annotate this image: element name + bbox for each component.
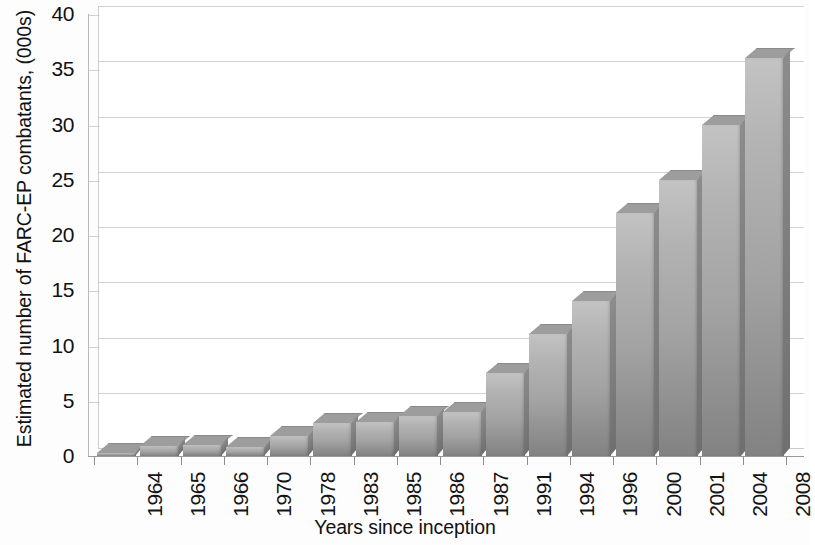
x-axis-tick — [224, 456, 225, 465]
x-axis-title: Years since inception — [0, 516, 810, 539]
x-axis-line — [88, 456, 804, 457]
x-axis-tick — [483, 456, 484, 465]
bar[interactable] — [529, 324, 573, 456]
x-axis-tick — [613, 456, 614, 465]
bar-front-face — [529, 334, 568, 456]
bar[interactable] — [659, 170, 703, 456]
bar[interactable] — [140, 436, 184, 456]
y-axis-tick-label: 15 — [32, 278, 74, 302]
x-axis-tick — [354, 456, 355, 465]
y-axis-tick-label: 20 — [32, 223, 74, 247]
bar[interactable] — [572, 291, 616, 456]
bar-front-face — [486, 373, 525, 456]
bar-front-face — [183, 445, 222, 456]
y-axis-tick-label: 35 — [32, 57, 74, 81]
bar-front-face — [443, 412, 482, 456]
bar-front-face — [270, 436, 309, 456]
x-axis-tick — [700, 456, 701, 465]
bar[interactable] — [443, 402, 487, 456]
y-axis-tick-label: 40 — [32, 2, 74, 26]
bar[interactable] — [226, 437, 270, 456]
bar-side-face — [783, 50, 790, 456]
x-axis-tick — [94, 456, 95, 465]
y-axis-tick-label: 30 — [32, 112, 74, 136]
bar-front-face — [745, 58, 784, 456]
x-axis-tick — [397, 456, 398, 465]
x-axis-tick — [786, 456, 787, 465]
x-axis-tick — [527, 456, 528, 465]
bar-front-face — [356, 422, 395, 456]
bar[interactable] — [702, 115, 746, 457]
y-axis-tick-labels: 0510152025303540 — [14, 0, 74, 545]
bar[interactable] — [745, 48, 789, 456]
plot-area: 1964196519661970197819831985198619871991… — [88, 6, 804, 454]
bar[interactable] — [97, 443, 141, 456]
bar[interactable] — [356, 412, 400, 456]
bar-front-face — [659, 180, 698, 456]
bar-front-face — [226, 447, 265, 456]
x-axis-tick — [656, 456, 657, 465]
x-axis-tick — [181, 456, 182, 465]
bar[interactable] — [486, 363, 530, 456]
bar[interactable] — [270, 426, 314, 456]
y-axis-tick-label: 25 — [32, 167, 74, 191]
x-axis-tick — [743, 456, 744, 465]
x-axis-tick — [267, 456, 268, 465]
bar-front-face — [399, 416, 438, 456]
bar[interactable] — [616, 203, 660, 456]
bar-front-face — [702, 125, 741, 457]
bar-front-face — [616, 213, 655, 456]
y-axis-tick-label: 0 — [32, 444, 74, 468]
bar[interactable] — [313, 413, 357, 456]
x-axis-tick — [440, 456, 441, 465]
x-axis-tick — [310, 456, 311, 465]
bar-front-face — [572, 301, 611, 456]
y-axis-tick-label: 10 — [32, 333, 74, 357]
bar-front-face — [140, 446, 179, 456]
bar-series — [88, 6, 804, 456]
x-axis-tick — [137, 456, 138, 465]
y-axis-tick-label: 5 — [32, 388, 74, 412]
x-axis-tick — [570, 456, 571, 465]
bar-front-face — [313, 423, 352, 456]
bar[interactable] — [399, 406, 443, 456]
bar[interactable] — [183, 435, 227, 456]
